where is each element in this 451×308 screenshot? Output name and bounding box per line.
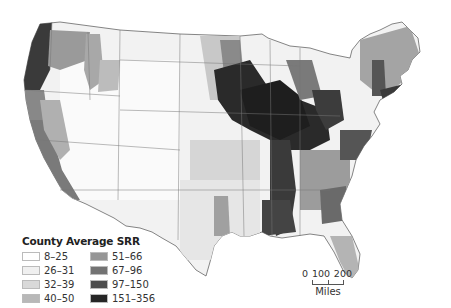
scale-tick: 100 [312, 268, 330, 279]
legend-swatch [90, 294, 108, 303]
legend-item: 26–31 [22, 264, 90, 276]
legend-item: 67–96 [90, 264, 158, 276]
legend-item: 51–66 [90, 250, 158, 262]
scale-tick: 0 [302, 268, 308, 279]
legend-swatch [22, 252, 40, 261]
legend-swatch [90, 252, 108, 261]
legend-title: County Average SRR [22, 235, 162, 247]
legend-item: 32–39 [22, 278, 90, 290]
legend-item: 40–50 [22, 292, 90, 304]
scale-unit: Miles [298, 286, 358, 297]
legend-item: 151–356 [90, 292, 158, 304]
legend-swatch [22, 280, 40, 289]
legend-item: 97–150 [90, 278, 158, 290]
scale-tick: 200 [334, 268, 352, 279]
scale-line [312, 279, 344, 285]
legend-swatch [90, 280, 108, 289]
legend-swatch [90, 266, 108, 275]
legend: County Average SRR 8–25 51–66 26–31 67–9… [22, 235, 162, 304]
scale-bar: 0 100 200 Miles [298, 268, 358, 297]
legend-swatch [22, 294, 40, 303]
legend-item: 8–25 [22, 250, 90, 262]
legend-swatch [22, 266, 40, 275]
